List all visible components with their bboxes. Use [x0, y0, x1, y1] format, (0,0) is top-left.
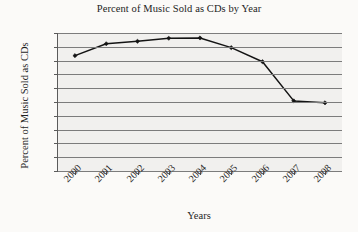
data-point-marker	[73, 54, 77, 58]
y-axis-tick	[54, 47, 58, 48]
x-axis-title: Years	[57, 210, 341, 221]
gridline-y	[58, 61, 342, 62]
y-axis-tick	[54, 157, 58, 158]
gridline-y	[58, 130, 342, 131]
gridline-y	[58, 102, 342, 103]
gridline-y	[58, 157, 342, 158]
data-point-marker	[135, 39, 139, 43]
data-point-marker	[104, 42, 108, 46]
y-axis-tick	[54, 130, 58, 131]
plot-area: 1009590858075706560555020002001200220032…	[57, 33, 342, 172]
y-axis-tick	[54, 88, 58, 89]
y-axis-tick	[54, 61, 58, 62]
y-axis-tick	[54, 33, 58, 34]
y-axis-tick	[54, 171, 58, 172]
gridline-y	[58, 116, 342, 117]
data-point-marker	[198, 36, 202, 40]
y-axis-tick	[54, 143, 58, 144]
data-point-marker	[167, 36, 171, 40]
gridline-y	[58, 88, 342, 89]
chart-figure: Percent of Music Sold as CDs by Year Per…	[0, 0, 358, 232]
chart-title: Percent of Music Sold as CDs by Year	[0, 3, 358, 14]
y-axis-tick	[54, 116, 58, 117]
gridline-y	[58, 47, 342, 48]
gridline-y	[58, 143, 342, 144]
y-axis-tick	[54, 74, 58, 75]
gridline-y	[58, 33, 342, 34]
y-axis-tick	[54, 102, 58, 103]
gridline-y	[58, 74, 342, 75]
y-axis-title: Percent of Music Sold as CDs	[19, 26, 30, 186]
